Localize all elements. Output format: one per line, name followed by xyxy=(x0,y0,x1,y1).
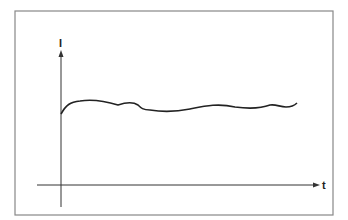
y-axis-label: I xyxy=(59,38,62,49)
y-axis-arrow-icon xyxy=(59,50,64,57)
x-axis xyxy=(37,183,320,188)
diagram-canvas xyxy=(0,0,348,220)
frame-border xyxy=(15,11,333,215)
current-curve xyxy=(61,100,297,114)
x-axis-arrow-icon xyxy=(313,183,320,188)
y-axis xyxy=(59,50,64,207)
x-axis-label: t xyxy=(322,180,326,191)
